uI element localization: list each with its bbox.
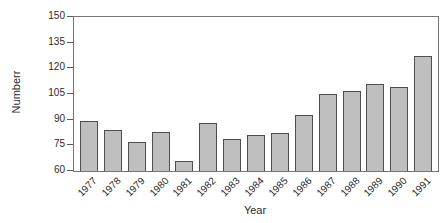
- y-tick-label-120: 120: [29, 61, 65, 73]
- bar-1990: [390, 87, 408, 171]
- y-tick-mark-105: [67, 93, 73, 94]
- bar-1991: [414, 56, 432, 171]
- bar-1986: [295, 115, 313, 172]
- y-tick-label-75: 75: [29, 138, 65, 150]
- bar-1982: [199, 123, 217, 171]
- bar-1988: [343, 91, 361, 171]
- y-tick-label-135: 135: [29, 36, 65, 48]
- y-tick-mark-90: [67, 119, 73, 120]
- bar-1981: [175, 161, 193, 171]
- bar-1985: [271, 133, 289, 171]
- y-tick-mark-120: [67, 67, 73, 68]
- bar-1978: [104, 130, 122, 171]
- y-tick-label-150: 150: [29, 10, 65, 22]
- y-axis-title: Numberr: [10, 71, 22, 114]
- bar-chart-figure: Numberr Year 607590105120135150197719781…: [0, 0, 445, 223]
- y-tick-mark-60: [67, 170, 73, 171]
- y-tick-label-105: 105: [29, 87, 65, 99]
- y-tick-mark-135: [67, 42, 73, 43]
- bar-1980: [152, 132, 170, 171]
- y-tick-mark-150: [67, 16, 73, 17]
- bar-1979: [128, 142, 146, 171]
- bar-1987: [319, 94, 337, 171]
- bar-1984: [247, 135, 265, 171]
- y-tick-label-60: 60: [29, 164, 65, 176]
- bar-1989: [366, 84, 384, 171]
- y-tick-label-90: 90: [29, 113, 65, 125]
- bar-1977: [80, 121, 98, 171]
- y-tick-mark-75: [67, 144, 73, 145]
- x-axis-title: Year: [73, 204, 437, 216]
- plot-area: [73, 16, 439, 172]
- bar-1983: [223, 139, 241, 172]
